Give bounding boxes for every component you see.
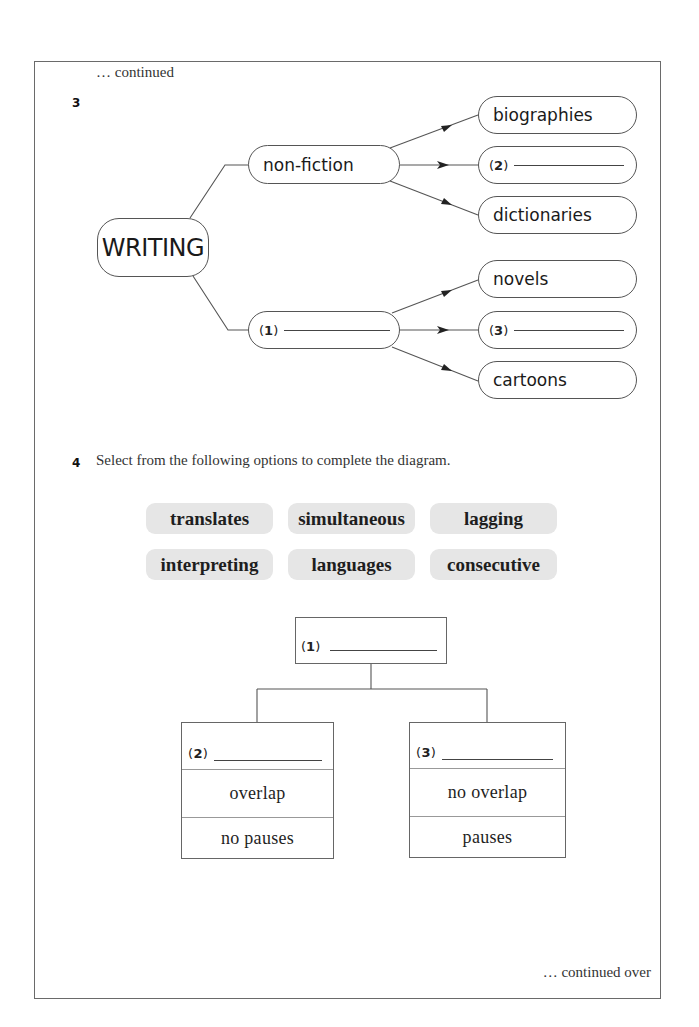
tree-left-header[interactable]: (2) xyxy=(182,723,333,769)
option-interpreting[interactable]: interpreting xyxy=(146,549,273,580)
leaf-node-novels: novels xyxy=(478,260,637,298)
root-node-label: WRITING xyxy=(102,234,204,262)
tree-right-row-pauses: pauses xyxy=(410,816,565,857)
tree-blank-2-line[interactable] xyxy=(214,759,322,761)
branch-label: non-fiction xyxy=(263,155,354,175)
option-lagging[interactable]: lagging xyxy=(430,503,557,534)
blank-1-line[interactable] xyxy=(284,329,390,331)
blank-2-label: (2) xyxy=(489,158,508,173)
blank-3-line[interactable] xyxy=(514,329,624,331)
option-simultaneous[interactable]: simultaneous xyxy=(288,503,415,534)
tree-left-row-overlap: overlap xyxy=(182,769,333,817)
leaf-label: novels xyxy=(493,269,548,289)
tree-right-box: (3) no overlap pauses xyxy=(409,722,566,858)
leaf-node-biographies: biographies xyxy=(478,96,637,134)
blank-1-label: (1) xyxy=(259,323,278,338)
leaf-label: dictionaries xyxy=(493,205,592,225)
leaf-label: cartoons xyxy=(493,370,567,390)
blank-2-line[interactable] xyxy=(514,164,624,166)
tree-right-row-no-overlap: no overlap xyxy=(410,768,565,816)
question-4-instruction: Select from the following options to com… xyxy=(96,452,451,469)
tree-left-box: (2) overlap no pauses xyxy=(181,722,334,859)
leaf-label: biographies xyxy=(493,105,593,125)
tree-blank-2-label: (2) xyxy=(188,746,208,761)
tree-right-header[interactable]: (3) xyxy=(410,723,565,768)
tree-blank-3-line[interactable] xyxy=(442,758,553,760)
connector-root-blank1 xyxy=(193,276,250,330)
tree-blank-1-line[interactable] xyxy=(330,649,437,651)
blank-3-label: (3) xyxy=(489,323,508,338)
tree-top-box[interactable]: (1) xyxy=(295,617,447,664)
tree-blank-1-label: (1) xyxy=(301,639,324,654)
leaf-node-dictionaries: dictionaries xyxy=(478,196,637,234)
question-4-number: 4 xyxy=(72,456,80,470)
tree-blank-3-label: (3) xyxy=(416,745,436,760)
continued-over-label: … continued over xyxy=(543,964,651,981)
branch-node-nonfiction: non-fiction xyxy=(248,145,400,184)
option-consecutive[interactable]: consecutive xyxy=(430,549,557,580)
option-languages[interactable]: languages xyxy=(288,549,415,580)
leaf-node-blank-2[interactable]: (2) xyxy=(478,146,637,184)
leaf-node-cartoons: cartoons xyxy=(478,361,637,399)
leaf-node-blank-3[interactable]: (3) xyxy=(478,311,637,349)
tree-left-row-no-pauses: no pauses xyxy=(182,817,333,858)
root-node-writing: WRITING xyxy=(97,218,209,277)
branch-node-blank-1[interactable]: (1) xyxy=(248,311,400,349)
option-translates[interactable]: translates xyxy=(146,503,273,534)
tree-connectors xyxy=(257,663,487,722)
connector-root-nonfiction xyxy=(190,165,250,218)
